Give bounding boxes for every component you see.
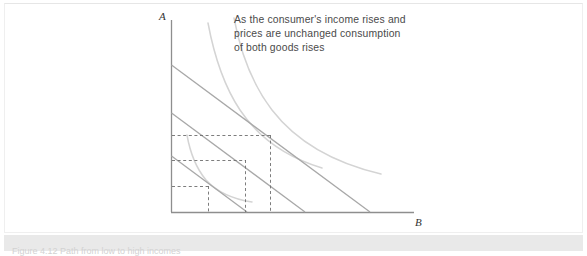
x-axis-label: B — [415, 216, 422, 228]
budget-line-low-income — [172, 156, 248, 212]
y-axis-label: A — [158, 10, 166, 22]
budget-line-medium-income — [172, 113, 306, 212]
budget-lines — [172, 65, 371, 212]
budget-line-high-income — [172, 65, 371, 212]
chart-annotation-text: As the consumer's income rises and price… — [234, 13, 444, 56]
dashed-guides — [172, 135, 271, 212]
figure-caption: Figure 4.12 Path from low to high income… — [12, 246, 432, 256]
